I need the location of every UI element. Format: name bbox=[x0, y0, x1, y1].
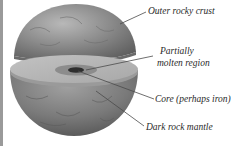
label-outer-crust: Outer rocky crust bbox=[148, 6, 215, 16]
leader-outer-crust bbox=[120, 12, 146, 24]
upper-hemisphere bbox=[14, 4, 136, 63]
label-partially: Partially bbox=[160, 46, 194, 56]
label-molten-region: molten region bbox=[157, 58, 210, 68]
label-mantle: Dark rock mantle bbox=[146, 122, 213, 132]
label-core: Core (perhaps iron) bbox=[155, 94, 231, 104]
lower-hemisphere bbox=[10, 55, 138, 136]
